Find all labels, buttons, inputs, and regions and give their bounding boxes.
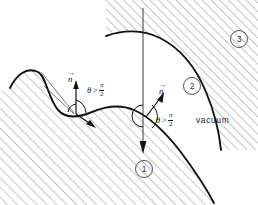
- pi-symbol-right: π: [168, 112, 174, 120]
- pi-over-two-right: π 2: [168, 112, 174, 128]
- denominator-two-left: 2: [99, 90, 105, 99]
- normal-vector-left-symbol: n: [68, 74, 73, 84]
- diagram-canvas: [0, 0, 258, 205]
- region-3-label: 3: [233, 35, 245, 44]
- pi-over-two-left: π 2: [99, 82, 105, 98]
- greater-than-right: >: [162, 116, 167, 125]
- region-2-label: 2: [186, 82, 198, 91]
- physics-diagram-figure: → n θ > π 2 → n θ > π 2 vacuum 1 2 3: [0, 0, 258, 205]
- pi-symbol-left: π: [99, 82, 105, 90]
- normal-vector-left-arrowhead: [73, 80, 79, 89]
- theta-symbol-right: θ: [156, 116, 160, 125]
- denominator-two-right: 2: [168, 120, 174, 129]
- region-1-label: 1: [138, 165, 150, 174]
- theta-symbol-left: θ: [87, 86, 91, 95]
- greater-than-left: >: [93, 86, 98, 95]
- normal-vector-right-label: → n: [159, 84, 165, 96]
- angle-arc-left: [76, 100, 86, 113]
- normal-vector-left-label: → n: [68, 72, 74, 84]
- angle-label-left: θ > π 2: [87, 82, 105, 98]
- normal-vector-right-symbol: n: [159, 86, 164, 96]
- vacuum-label: vacuum: [196, 116, 229, 125]
- angle-label-right: θ > π 2: [156, 112, 174, 128]
